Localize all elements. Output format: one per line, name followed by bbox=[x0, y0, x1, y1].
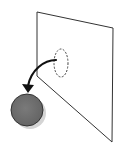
sphere bbox=[11, 94, 43, 126]
diagram-canvas bbox=[0, 0, 126, 143]
plane bbox=[37, 12, 113, 142]
arrowhead-icon bbox=[22, 84, 34, 93]
